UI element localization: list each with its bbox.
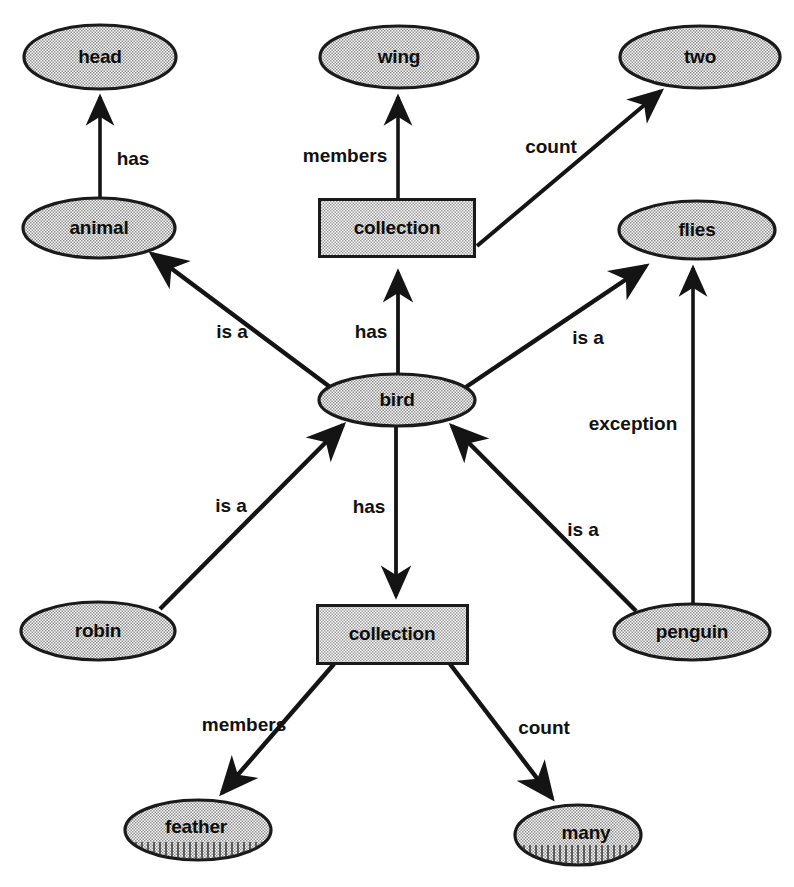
edge-bird-has-collection-top: has [355, 272, 398, 375]
edge-label-is-a: is a [567, 519, 599, 540]
edge-line [466, 266, 646, 387]
node-collection-top[interactable]: collection [320, 200, 475, 257]
node-head[interactable]: head [24, 25, 176, 89]
node-animal[interactable]: animal [23, 198, 175, 258]
edge-label-members: members [202, 714, 287, 735]
edge-line [160, 425, 343, 609]
node-feather[interactable]: feather [125, 800, 271, 864]
node-label: collection [354, 217, 441, 238]
edge-collection-members-wing: members [303, 97, 398, 199]
edge-label-count: count [525, 136, 577, 157]
node-label: flies [678, 219, 715, 240]
edge-penguin-isa-bird: is a [452, 426, 636, 611]
edge-bird-has-collection-bottom: has [353, 425, 396, 596]
edge-label-has: has [355, 321, 388, 342]
edge-collection-count-many: count [450, 664, 571, 798]
edge-label-has: has [117, 148, 150, 169]
node-label: penguin [656, 621, 728, 642]
node-many[interactable]: many [515, 805, 641, 870]
edge-bird-isa-flies: is a [466, 266, 646, 387]
edge-label-exception: exception [589, 413, 678, 434]
node-label: wing [377, 46, 420, 67]
node-collection-bottom[interactable]: collection [318, 606, 468, 664]
node-two[interactable]: two [620, 26, 780, 88]
node-label: many [562, 822, 611, 843]
edge-penguin-exception-flies: exception [589, 268, 693, 604]
edge-label-is-a: is a [216, 321, 248, 342]
node-flies[interactable]: flies [619, 201, 775, 259]
edge-label-is-a: is a [215, 495, 247, 516]
node-label: feather [165, 816, 228, 837]
edge-line [452, 426, 636, 611]
node-robin[interactable]: robin [21, 602, 175, 660]
edge-label-members: members [303, 145, 388, 166]
diagram-canvas: has members count is a has [0, 0, 794, 887]
node-label: collection [349, 623, 436, 644]
node-label: bird [379, 389, 414, 410]
node-label: animal [70, 217, 129, 238]
node-penguin[interactable]: penguin [614, 604, 770, 660]
node-label: head [78, 46, 122, 67]
node-label: robin [75, 620, 122, 641]
semantic-network-diagram: has members count is a has [0, 0, 794, 887]
node-wing[interactable]: wing [320, 26, 478, 88]
edge-label-is-a: is a [572, 327, 604, 348]
edge-animal-has-head: has [100, 97, 149, 198]
edges-layer: has members count is a has [100, 91, 693, 798]
edge-label-count: count [518, 717, 570, 738]
edge-label-has: has [353, 496, 386, 517]
edge-bird-isa-animal: is a [152, 254, 330, 387]
edge-collection-members-feather: members [202, 664, 334, 793]
node-label: two [684, 46, 716, 67]
node-bird[interactable]: bird [319, 374, 475, 426]
edge-robin-isa-bird: is a [160, 425, 343, 609]
